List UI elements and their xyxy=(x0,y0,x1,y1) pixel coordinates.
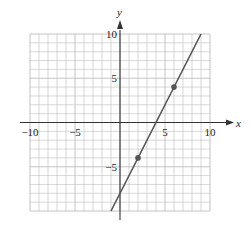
data-point-marker xyxy=(135,155,141,161)
coordinate-plane: −10−5510105−5 x y xyxy=(0,0,251,231)
x-tick-label: 10 xyxy=(205,126,217,138)
x-axis-arrow-icon xyxy=(226,120,234,126)
y-tick-label: 10 xyxy=(106,28,118,40)
y-tick-label: 5 xyxy=(112,72,118,84)
tick-labels: −10−5510105−5 xyxy=(21,28,216,173)
data-point-marker xyxy=(171,84,177,90)
x-tick-label: 5 xyxy=(162,126,168,138)
x-tick-label: −5 xyxy=(69,126,81,138)
axes xyxy=(20,20,234,220)
y-axis-arrow-icon xyxy=(117,20,123,29)
y-axis-label: y xyxy=(116,6,122,18)
y-tick-label: −5 xyxy=(105,161,117,173)
x-tick-label: −10 xyxy=(21,126,39,138)
x-axis-label: x xyxy=(235,117,241,129)
